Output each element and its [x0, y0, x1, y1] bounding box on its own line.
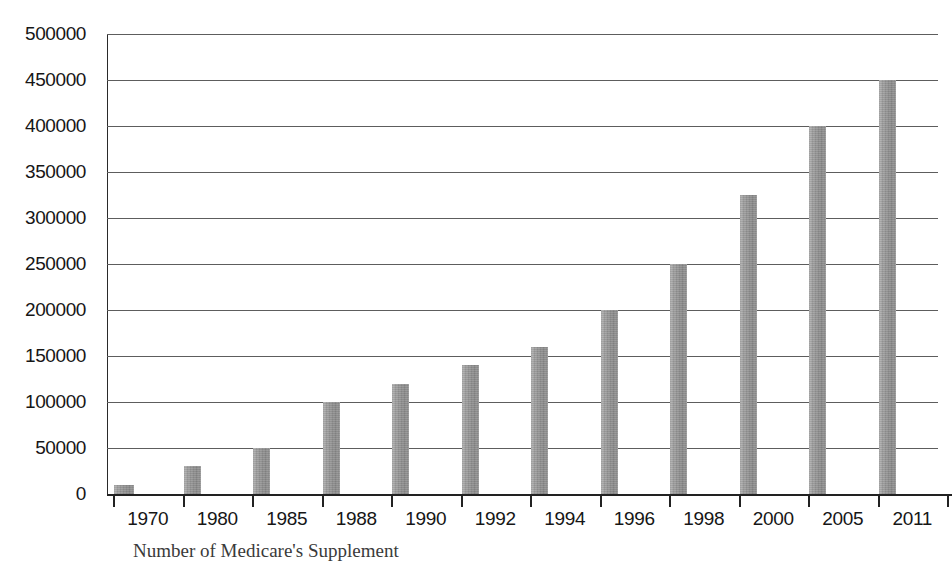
- y-axis-tick-label: 250000: [25, 253, 86, 275]
- y-axis-tick-label: 150000: [25, 345, 86, 367]
- x-axis-tick-label: 1990: [405, 508, 446, 530]
- y-axis-tick-label: 350000: [25, 161, 86, 183]
- x-axis-tick: [461, 496, 463, 507]
- chart-caption: Number of Medicare's Supplement: [133, 540, 399, 562]
- bar: [670, 264, 687, 494]
- x-axis-tick-label: 1985: [266, 508, 307, 530]
- x-axis-tick: [669, 496, 671, 507]
- y-axis-tick-label: 400000: [25, 115, 86, 137]
- x-axis-tick: [600, 496, 602, 507]
- bar: [462, 365, 479, 494]
- bar: [740, 195, 757, 494]
- bar: [601, 310, 618, 494]
- y-axis-tick-label: 0: [76, 483, 86, 505]
- x-axis-tick: [878, 496, 880, 507]
- x-axis-tick-label: 1996: [614, 508, 655, 530]
- x-axis-tick: [808, 496, 810, 507]
- bar: [184, 466, 201, 494]
- x-axis-line: [107, 494, 952, 496]
- bar: [392, 384, 409, 494]
- y-axis-labels: 0500001000001500002000002500003000003500…: [0, 0, 100, 558]
- plot-area: [107, 34, 938, 494]
- x-axis-tick: [947, 496, 949, 507]
- bar: [809, 126, 826, 494]
- x-axis-tick: [391, 496, 393, 507]
- x-axis-tick-label: 1980: [197, 508, 238, 530]
- x-axis-tick: [252, 496, 254, 507]
- bar: [253, 448, 270, 494]
- y-axis-tick-label: 300000: [25, 207, 86, 229]
- x-axis-tick-label: 2011: [892, 508, 932, 530]
- y-axis-tick-label: 500000: [25, 23, 86, 45]
- x-axis-tick-label: 1988: [336, 508, 377, 530]
- x-axis-tick-label: 1994: [544, 508, 585, 530]
- bar: [114, 485, 134, 494]
- y-axis-tick-label: 200000: [25, 299, 86, 321]
- x-axis-tick-label: 2000: [753, 508, 794, 530]
- x-axis-tick: [739, 496, 741, 507]
- y-axis-tick-label: 100000: [25, 391, 86, 413]
- x-axis-tick-label: 1970: [127, 508, 168, 530]
- x-axis-labels: 1970198019851988199019921994199619982000…: [0, 508, 952, 538]
- x-axis-tick-label: 2005: [822, 508, 863, 530]
- x-axis-tick: [183, 496, 185, 507]
- y-axis-tick-label: 450000: [25, 69, 86, 91]
- bars-layer: [107, 34, 938, 494]
- bar: [323, 402, 340, 494]
- x-axis-tick: [322, 496, 324, 507]
- x-axis-tick: [113, 496, 115, 507]
- x-axis-tick-label: 1992: [475, 508, 516, 530]
- x-axis-tick: [530, 496, 532, 507]
- bar: [879, 80, 896, 494]
- x-axis-tick-label: 1998: [683, 508, 724, 530]
- y-axis-tick-label: 50000: [35, 437, 86, 459]
- bar: [531, 347, 548, 494]
